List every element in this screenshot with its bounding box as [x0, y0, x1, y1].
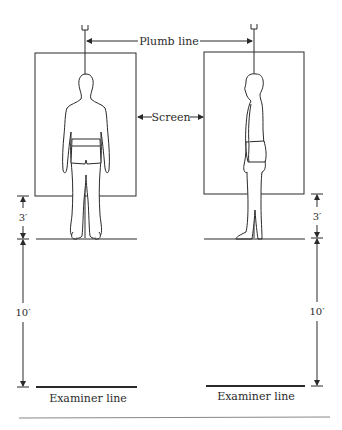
- dimension-label-left-10ft: 10′: [16, 307, 32, 318]
- dimension-left: [17, 196, 29, 387]
- plumb-line-label: Plumb line: [139, 35, 199, 48]
- plumb-bob-left: [82, 25, 88, 33]
- screen-label: Screen: [151, 111, 190, 124]
- dimension-right: [311, 194, 323, 386]
- plumb-bob-right: [251, 24, 257, 32]
- figure-posterior-view: [63, 74, 110, 239]
- examiner-line-label-right: Examiner line: [217, 390, 295, 403]
- bottom-rule: [19, 417, 330, 418]
- dimension-label-right-3ft: 3′: [313, 211, 322, 222]
- figure-lateral-view: [236, 74, 266, 239]
- posture-assessment-diagram: Plumb line Screen Examiner line Examiner…: [0, 0, 342, 430]
- dimension-label-right-10ft: 10′: [310, 306, 326, 317]
- dimension-label-left-3ft: 3′: [19, 212, 28, 223]
- examiner-line-label-left: Examiner line: [49, 392, 127, 405]
